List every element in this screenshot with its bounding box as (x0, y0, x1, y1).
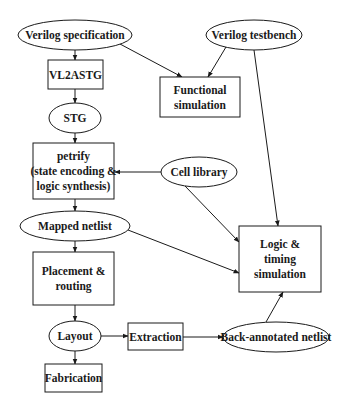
node-label: VL2ASTG (49, 69, 102, 81)
node-label: Mapped netlist (38, 220, 112, 233)
node-extraction: Extraction (128, 323, 183, 350)
node-functional-sim: Functionalsimulation (160, 77, 240, 117)
node-label: routing (55, 280, 91, 293)
node-label: Verilog testbench (212, 29, 297, 42)
edge-arrow-back-annotated-to-logic-timing-sim (266, 292, 283, 322)
node-label: (state encoding & (30, 165, 117, 178)
node-label: Logic & (260, 238, 300, 251)
node-label: STG (63, 112, 86, 124)
node-petrify: petrify(state encoding &logic synthesis) (30, 143, 117, 199)
edge-arrow-mapped-netlist-to-logic-timing-sim (128, 230, 239, 273)
node-label: Back-annotated netlist (221, 331, 332, 343)
node-label: Fabrication (45, 372, 103, 384)
nodes-layer: Verilog specificationVL2ASTGSTGpetrify(s… (18, 20, 332, 392)
node-label: petrify (57, 150, 90, 163)
edge-arrow-verilog-testbench-to-logic-timing-sim (254, 50, 278, 226)
flow-diagram: Verilog specificationVL2ASTGSTGpetrify(s… (0, 0, 339, 415)
node-label: simulation (254, 268, 306, 280)
node-label: Layout (57, 330, 92, 343)
node-verilog-testbench: Verilog testbench (206, 20, 302, 50)
node-back-annotated: Back-annotated netlist (221, 322, 332, 352)
edge-arrow-verilog-testbench-to-functional-sim (208, 47, 226, 77)
node-label: Cell library (170, 166, 227, 179)
node-cell-library: Cell library (161, 157, 237, 187)
node-label: Verilog specification (25, 29, 125, 42)
node-label: Extraction (129, 331, 182, 343)
node-label: Placement & (42, 265, 106, 277)
node-label: timing (264, 253, 296, 266)
node-fabrication: Fabrication (45, 364, 103, 392)
node-logic-timing-sim: Logic &timingsimulation (239, 226, 321, 292)
node-mapped-netlist: Mapped netlist (20, 211, 130, 241)
node-vl2astg: VL2ASTG (48, 60, 103, 89)
node-label: simulation (174, 99, 226, 111)
node-label: logic synthesis) (37, 180, 111, 193)
node-layout: Layout (49, 321, 101, 351)
box-shape (33, 252, 114, 305)
node-verilog-spec: Verilog specification (18, 20, 132, 50)
node-placement-routing: Placement &routing (33, 252, 114, 305)
edge-arrow-verilog-spec-to-functional-sim (120, 44, 182, 77)
edge-arrow-cell-library-to-logic-timing-sim (185, 186, 239, 242)
node-label: Functional (173, 84, 226, 96)
node-stg: STG (49, 103, 101, 133)
